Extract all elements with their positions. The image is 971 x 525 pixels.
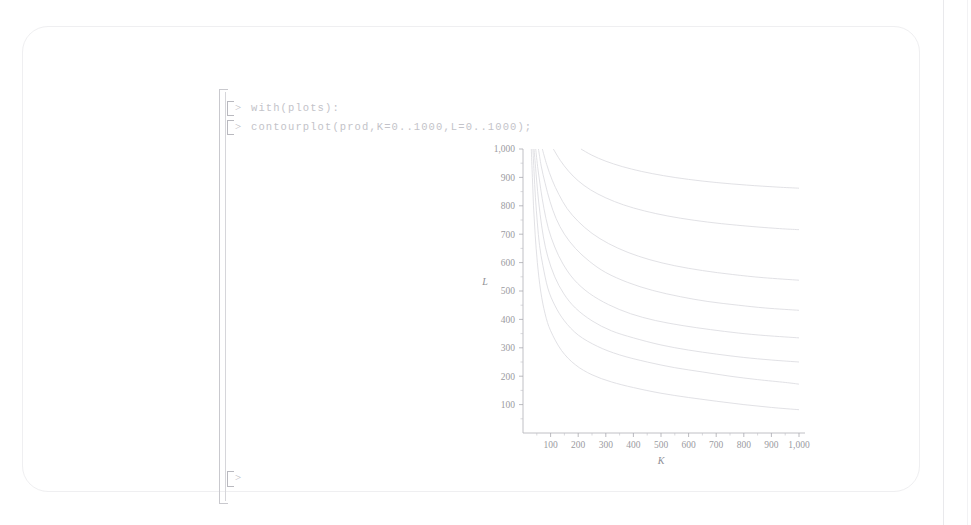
- y-tick-label: 900: [501, 173, 516, 183]
- plot-labels-layer: 1002003004005006007008009001,00010020030…: [481, 144, 810, 466]
- y-tick-label: 300: [501, 343, 516, 353]
- contour-curve: [553, 149, 799, 230]
- contour-plot-svg: 1002003004005006007008009001,00010020030…: [463, 137, 863, 487]
- y-axis-label: L: [481, 276, 488, 287]
- input-prompt-3: >: [235, 471, 241, 483]
- contour-plot-output[interactable]: 1002003004005006007008009001,00010020030…: [463, 137, 863, 487]
- x-tick-label: 400: [626, 440, 641, 450]
- x-tick-label: 900: [764, 440, 779, 450]
- x-tick-label: 700: [709, 440, 724, 450]
- x-axis-label: K: [657, 455, 666, 466]
- contour-curve: [533, 149, 799, 384]
- y-tick-label: 400: [501, 315, 516, 325]
- plot-curves-layer: [531, 149, 799, 410]
- input-prompt-1: >: [235, 101, 241, 113]
- execution-group-bracket-1[interactable]: [227, 101, 234, 116]
- contour-curve: [581, 149, 799, 188]
- execution-group-bracket-3[interactable]: [227, 471, 234, 487]
- y-tick-label: 600: [501, 258, 516, 268]
- contour-curve: [534, 149, 799, 362]
- y-tick-label: 500: [501, 286, 516, 296]
- x-tick-label: 600: [681, 440, 696, 450]
- execution-group-bracket-2[interactable]: [227, 120, 234, 135]
- x-tick-label: 300: [599, 440, 614, 450]
- y-tick-label: 200: [501, 372, 516, 382]
- y-tick-label: 800: [501, 201, 516, 211]
- contour-curve: [542, 149, 799, 280]
- worksheet-page-card: > with(plots): > contourplot(prod,K=0..1…: [22, 26, 920, 492]
- panel-divider-outer: [967, 0, 968, 525]
- x-tick-label: 500: [654, 440, 669, 450]
- x-tick-label: 800: [737, 440, 752, 450]
- x-tick-label: 1,000: [788, 440, 810, 450]
- input-prompt-2: >: [235, 120, 241, 132]
- y-tick-label: 100: [501, 400, 516, 410]
- contour-curve: [531, 149, 799, 410]
- contour-curve: [536, 149, 799, 338]
- x-tick-label: 100: [543, 440, 558, 450]
- contour-curve: [538, 149, 799, 310]
- command-input-1[interactable]: with(plots):: [251, 102, 340, 114]
- y-tick-label: 700: [501, 230, 516, 240]
- y-tick-label: 1,000: [494, 144, 516, 154]
- x-tick-label: 200: [571, 440, 586, 450]
- command-input-2[interactable]: contourplot(prod,K=0..1000,L=0..1000);: [251, 121, 532, 133]
- worksheet-group-bracket-inner: [225, 92, 234, 501]
- panel-divider: [943, 0, 944, 525]
